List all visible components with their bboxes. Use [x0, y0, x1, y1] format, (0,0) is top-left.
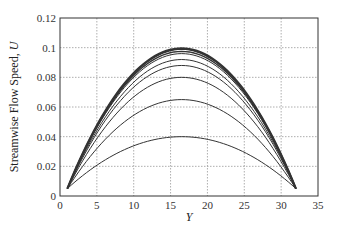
profile-curve: [67, 137, 296, 189]
profile-curve: [67, 54, 296, 189]
y-tick-label: 0.08: [37, 71, 57, 83]
x-tick-label: 35: [313, 199, 325, 211]
x-tick-label: 5: [94, 199, 100, 211]
line-chart: 05101520253035 00.020.040.060.080.10.12 …: [0, 0, 339, 237]
profile-curve: [67, 65, 296, 188]
y-tick-label: 0.04: [37, 131, 57, 143]
x-tick-label: 25: [239, 199, 251, 211]
y-axis-ticks: 00.020.040.060.080.10.12: [37, 12, 57, 202]
grid-lines: [60, 18, 318, 196]
y-tick-label: 0.1: [42, 42, 56, 54]
y-axis-label: Streamwise Flow Speed, U: [7, 40, 21, 172]
profile-curve: [67, 77, 296, 188]
y-tick-label: 0.06: [37, 101, 57, 113]
y-tick-label: 0: [51, 190, 57, 202]
y-tick-label: 0.12: [37, 12, 56, 24]
x-tick-label: 0: [57, 199, 63, 211]
x-tick-label: 20: [202, 199, 214, 211]
x-axis-label: Y: [186, 210, 194, 224]
x-tick-label: 10: [128, 199, 140, 211]
profile-curve: [67, 100, 296, 189]
x-tick-label: 15: [165, 199, 177, 211]
profile-curve: [67, 60, 296, 189]
y-tick-label: 0.02: [37, 160, 56, 172]
profile-curve: [67, 48, 296, 188]
velocity-profile-curves: [67, 48, 296, 188]
x-tick-label: 30: [276, 199, 288, 211]
